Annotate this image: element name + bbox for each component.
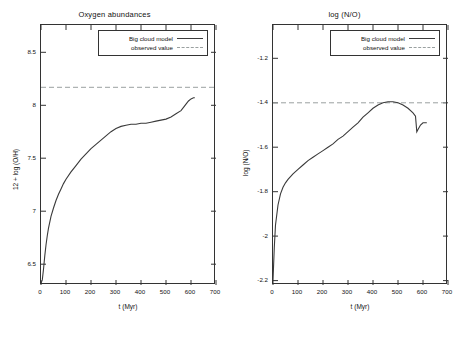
- legend-label-observed-right: observed value: [363, 44, 405, 51]
- x-tick-label-left-4: 400: [128, 288, 152, 295]
- y-tick-label-right-3: -1.6: [244, 143, 268, 150]
- x-tick-label-right-6: 600: [410, 288, 434, 295]
- legend-entry-observed-left: observed value: [103, 43, 203, 52]
- plot-area-left: [40, 24, 215, 284]
- panel-log-no: log (N/O): [230, 0, 459, 337]
- x-ticks-left: [41, 25, 216, 285]
- y-ticks-left: [41, 52, 216, 264]
- y-tick-label-right-1: -2: [244, 232, 268, 239]
- legend-swatch-model-left: [177, 38, 203, 39]
- x-tick-label-right-1: 100: [285, 288, 309, 295]
- model-curve-right: [273, 102, 427, 281]
- x-axis-title-right: t (Myr): [320, 303, 400, 310]
- y-tick-label-right-4: -1.4: [244, 98, 268, 105]
- x-tick-label-left-3: 300: [103, 288, 127, 295]
- chart-title-left: Oxygen abundances: [0, 10, 229, 19]
- x-tick-label-right-4: 400: [360, 288, 384, 295]
- y-axis-title-left: 12 + log (O/H): [12, 149, 19, 190]
- legend-entry-model-left: Big cloud model: [103, 34, 203, 43]
- y-tick-label-left-3: 8: [16, 101, 36, 108]
- y-tick-label-left-2: 7.5: [16, 154, 36, 161]
- legend-entry-observed-right: observed value: [335, 43, 435, 52]
- chart-title-right: log (N/O): [230, 10, 459, 19]
- x-tick-label-right-0: 0: [260, 288, 284, 295]
- x-tick-label-left-7: 700: [203, 288, 227, 295]
- plot-svg-left: [41, 25, 216, 285]
- x-tick-label-left-6: 600: [178, 288, 202, 295]
- y-tick-label-right-0: -2.2: [244, 276, 268, 283]
- x-tick-label-right-3: 300: [335, 288, 359, 295]
- x-ticks-right: [273, 25, 448, 285]
- legend-label-model-right: Big cloud model: [361, 35, 405, 42]
- model-curve-left: [41, 98, 195, 283]
- y-axis-title-right: log (N/O): [242, 150, 249, 176]
- figure-root: Oxygen abundances: [0, 0, 459, 337]
- legend-right: Big cloud model observed value: [330, 30, 440, 56]
- x-tick-label-right-7: 700: [435, 288, 459, 295]
- x-axis-title-left: t (Myr): [88, 303, 168, 310]
- panel-oxygen-abundances: Oxygen abundances: [0, 0, 229, 337]
- y-tick-label-left-4: 8.5: [16, 48, 36, 55]
- x-tick-label-left-2: 200: [78, 288, 102, 295]
- legend-swatch-observed-right: [409, 47, 435, 48]
- x-tick-label-left-1: 100: [53, 288, 77, 295]
- legend-swatch-model-right: [409, 38, 435, 39]
- y-tick-label-right-2: -1.8: [244, 187, 268, 194]
- x-tick-label-left-5: 500: [153, 288, 177, 295]
- legend-swatch-observed-left: [177, 47, 203, 48]
- y-tick-label-right-5: -1.2: [244, 54, 268, 61]
- legend-left: Big cloud model observed value: [98, 30, 208, 56]
- y-tick-label-left-1: 7: [16, 207, 36, 214]
- plot-area-right: [272, 24, 447, 284]
- legend-entry-model-right: Big cloud model: [335, 34, 435, 43]
- x-tick-label-left-0: 0: [28, 288, 52, 295]
- y-tick-label-left-0: 6.5: [16, 260, 36, 267]
- legend-label-observed-left: observed value: [131, 44, 173, 51]
- x-tick-label-right-5: 500: [385, 288, 409, 295]
- x-tick-label-right-2: 200: [310, 288, 334, 295]
- legend-label-model-left: Big cloud model: [129, 35, 173, 42]
- plot-svg-right: [273, 25, 448, 285]
- y-ticks-right: [273, 58, 448, 280]
